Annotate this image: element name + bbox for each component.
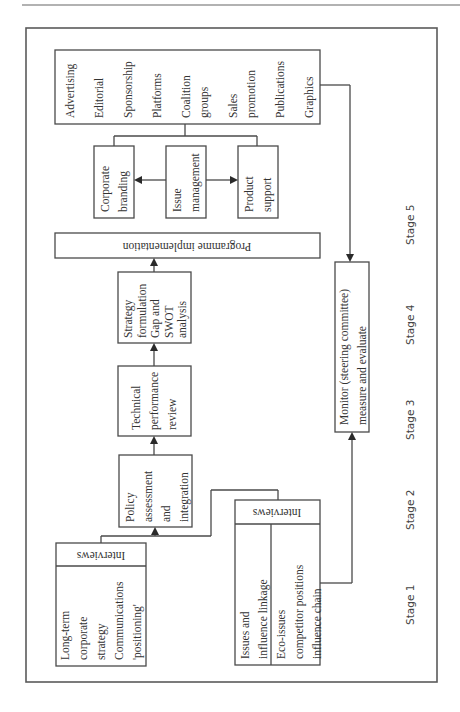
media-to-outputs-connector [114, 124, 257, 146]
programme-implementation-label: Programme implementation [122, 240, 251, 253]
interviews-right-col2-line: competitor positions [293, 564, 306, 659]
policy-assessment-label: integration [178, 472, 191, 522]
media-channels-box: AdvertisingEditorialSponsorshipPlatforms… [55, 50, 320, 124]
strategy-formulation-label: formulation [136, 283, 148, 338]
media-channel-item: Platforms [151, 73, 163, 118]
monitor-label: measure and evaluate [356, 326, 368, 425]
media-channel-item: Graphics [303, 76, 316, 118]
corporate-branding-label: Corporate [99, 166, 112, 212]
strategy-formulation-label: Gap and [149, 299, 162, 338]
product-support-label: support [261, 177, 274, 212]
stage-label: Stage 5 [404, 205, 416, 245]
interviews-right-box: Interviews Issues andinfluence linkage E… [235, 500, 323, 665]
programme-implementation-box: Programme implementation [55, 233, 320, 258]
strategy-formulation-label: analysis [176, 300, 189, 338]
stage-label: Stage 1 [404, 585, 416, 625]
issue-to-branding-arrow [134, 176, 166, 184]
media-channel-item: Advertising [64, 63, 77, 118]
strategy-formulation-label: Strategy [122, 299, 135, 338]
stage-labels: Stage 1Stage 2Stage 3Stage 4Stage 5 [404, 205, 416, 625]
corporate-branding-box: Corporatebranding [94, 146, 134, 218]
media-channel-item: Coalition [180, 75, 192, 118]
technical-review-label: Technical [130, 385, 142, 430]
issue-management-label: management [189, 152, 202, 212]
stage-label: Stage 2 [404, 490, 416, 530]
policy-assessment-label: and [160, 505, 172, 522]
media-channel-item: Publications [274, 61, 286, 118]
strategy-formulation-box: StrategyformulationGap andSWOTanalysis [118, 272, 191, 343]
policy-assessment-label: assessment [142, 470, 154, 522]
interviews-left-line: corporate [77, 617, 90, 660]
media-channel-item: groups [198, 86, 211, 118]
technical-to-strategy-arrow [150, 343, 158, 366]
media-to-monitor-connector [320, 85, 354, 262]
corporate-branding-label: branding [117, 171, 130, 212]
technical-review-label: performance [148, 372, 161, 430]
interviews-left-header: Interviews [76, 550, 125, 562]
policy-to-technical-arrow [150, 436, 158, 455]
product-support-box: Productsupport [238, 146, 278, 218]
interviews-right-col1-line: influence linkage [257, 579, 270, 659]
media-channel-item: Sales [227, 93, 239, 118]
stage-label: Stage 3 [404, 400, 416, 440]
interviews-right-header: Interviews [252, 507, 301, 519]
interviews-right-col2-line: influence chain [311, 588, 323, 659]
interviews-left-line: strategy [95, 623, 108, 660]
policy-assessment-label: Policy [124, 492, 137, 522]
technical-review-label: review [166, 398, 178, 430]
issue-to-product-arrow [206, 176, 238, 184]
interviews-left-box: Interviews Long-termcorporatestrategyCom… [56, 543, 146, 666]
monitor-box: Monitor (steering committee)measure and … [335, 262, 369, 432]
issue-management-label: Issue [171, 188, 183, 212]
interviews-right-col1-line: Issues and [239, 611, 251, 659]
technical-review-box: Technicalperformancereview [118, 366, 191, 436]
issue-management-box: Issuemanagement [166, 146, 206, 218]
media-channel-item: Sponsorship [122, 61, 135, 118]
process-diagram: AdvertisingEditorialSponsorshipPlatforms… [0, 0, 460, 712]
interviews-right-col2-line: Eco-issues [275, 609, 287, 659]
strategy-to-programme-arrow [150, 258, 158, 272]
media-channel-item: Editorial [93, 78, 105, 118]
product-support-label: Product [243, 175, 255, 212]
stage-label: Stage 4 [404, 304, 416, 345]
interviews-to-monitor-connector [320, 432, 356, 583]
strategy-formulation-label: SWOT [163, 305, 175, 338]
interviews-left-line: Long-term [59, 611, 72, 660]
media-channel-item: promotion [245, 70, 258, 118]
policy-assessment-box: Policyassessmentandintegration [119, 455, 192, 527]
monitor-label: Monitor (steering committee) [338, 289, 351, 425]
interviews-left-line: 'positioning' [131, 604, 144, 660]
interviews-left-line: Communications [113, 581, 125, 660]
